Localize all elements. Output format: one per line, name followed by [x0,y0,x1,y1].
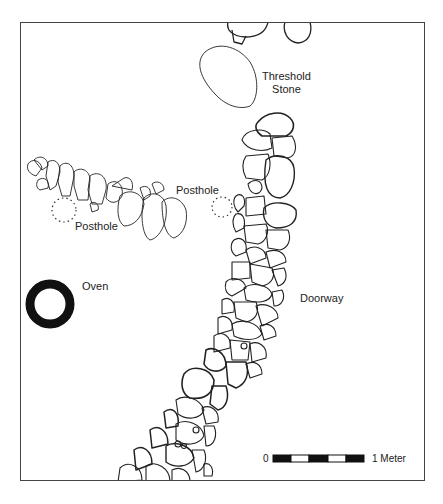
oven-label: Oven [82,280,108,293]
site-plan-drawing [0,0,443,504]
top-stones [228,22,311,44]
wall-stones [118,113,296,482]
posthole-right-label: Posthole [176,184,219,197]
threshold-stone-label: Threshold Stone [262,70,311,96]
threshold-stone [200,46,257,107]
scale-start-label: 0 [263,453,269,464]
posthole-left [52,198,76,222]
threshold-label-line2: Stone [262,83,311,96]
doorway-label: Doorway [300,292,343,305]
posthole-right [212,197,232,217]
scale-bar [273,455,364,462]
oven-ring [30,284,70,324]
scale-end-label: 1 Meter [372,453,406,464]
threshold-label-line1: Threshold [262,70,311,83]
posthole-left-label: Posthole [75,220,118,233]
